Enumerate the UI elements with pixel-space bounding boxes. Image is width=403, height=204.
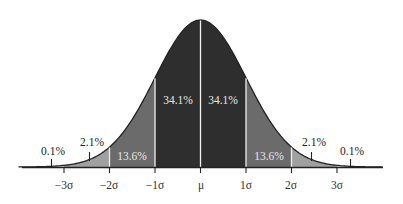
label-center-right: 34.1% — [208, 94, 238, 106]
tick-label-minus-2-sigma: −2σ — [100, 179, 119, 191]
tick-label-minus-1-sigma: −1σ — [146, 179, 165, 191]
normal-distribution-chart: 0.1% 2.1% 13.6% 34.1% 34.1% 13.6% 2.1% 0… — [0, 0, 403, 204]
label-mid-left: 13.6% — [117, 150, 147, 162]
label-outer-right: 0.1% — [340, 145, 364, 157]
label-tail-left: 2.1% — [80, 136, 104, 148]
label-center-left: 34.1% — [163, 94, 193, 106]
tick-label-plus-1-sigma: 1σ — [240, 179, 253, 191]
tick-label-mu: μ — [198, 179, 204, 192]
label-outer-left: 0.1% — [41, 145, 65, 157]
tick-label-plus-2-sigma: 2σ — [285, 179, 298, 191]
label-mid-right: 13.6% — [254, 150, 284, 162]
label-tail-right: 2.1% — [302, 136, 326, 148]
tick-label-minus-3-sigma: −3σ — [55, 179, 74, 191]
tick-label-plus-3-sigma: 3σ — [331, 179, 344, 191]
